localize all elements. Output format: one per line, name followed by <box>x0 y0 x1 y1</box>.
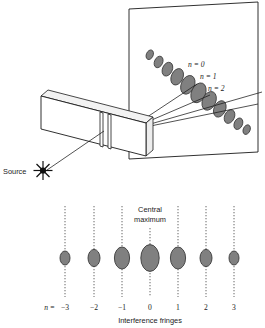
slit-2 <box>108 114 111 149</box>
tick-label-n-minus3: −3 <box>61 303 69 312</box>
barrier-side-face <box>146 117 153 156</box>
fringe-n-minus3 <box>60 251 70 265</box>
source-point <box>40 167 46 173</box>
central-maximum-line1: Central <box>138 205 162 214</box>
fringe-n-2 <box>200 249 212 266</box>
fringe-row <box>60 245 239 272</box>
fringe-n-0 <box>141 245 159 272</box>
interference-diagram: n = 0 n = 1 n = 2 θ1 <box>0 0 265 328</box>
order-label-n0: n = 0 <box>188 60 205 69</box>
tick-label-n-3: 3 <box>232 303 236 312</box>
tick-label-n-1: 1 <box>176 303 180 312</box>
source-label: Source <box>3 167 26 176</box>
axis-prefix-label: n = <box>44 303 55 312</box>
figure-root: n = 0 n = 1 n = 2 θ1 <box>0 0 265 328</box>
fringe-n-minus1 <box>114 247 129 269</box>
tick-label-n-minus1: −1 <box>118 303 126 312</box>
figure-caption: Interference fringes <box>118 316 182 325</box>
upper-scene: n = 0 n = 1 n = 2 θ1 <box>3 2 264 180</box>
central-maximum-line2: maximum <box>134 215 166 224</box>
fringe-n-1 <box>170 247 185 269</box>
fringe-n-minus2 <box>88 249 100 266</box>
order-label-n1: n = 1 <box>200 72 217 81</box>
tick-label-n-minus2: −2 <box>90 303 98 312</box>
lower-fringe-diagram: Central maximum n = −3 −2 −1 0 1 2 3 Int… <box>44 205 239 325</box>
fringe-n-3 <box>229 251 239 265</box>
slit-1 <box>100 112 103 147</box>
tick-label-n-0: 0 <box>148 303 152 312</box>
order-label-n2: n = 2 <box>208 84 225 93</box>
tick-label-n-2: 2 <box>204 303 208 312</box>
